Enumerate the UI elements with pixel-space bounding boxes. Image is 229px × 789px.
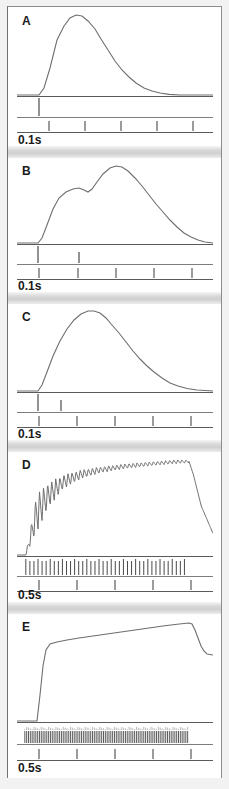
panel-d-trace-baseline — [17, 556, 213, 557]
scan-band-separator — [8, 292, 221, 304]
panel-a: A — [8, 8, 221, 146]
scan-band-separator — [8, 440, 221, 452]
panel-c-time-row — [17, 413, 213, 427]
panel-a-inner: 0.1s — [17, 8, 213, 146]
panel-a-stimulus-row — [17, 97, 213, 117]
panel-c-time-axis — [17, 427, 213, 428]
panel-d-inner: 0.5s — [17, 452, 213, 602]
panel-b-inner: 0.1s — [17, 158, 213, 292]
scan-band-separator — [8, 602, 221, 614]
panel-a-trace — [17, 12, 213, 96]
panel-b-scale-label: 0.1s — [18, 280, 41, 292]
panel-c: C — [8, 304, 221, 440]
panel-a-scale-label: 0.1s — [18, 134, 41, 146]
panel-d-time-axis — [17, 591, 213, 592]
panel-b: B — [8, 158, 221, 292]
panel-e: E — [8, 614, 221, 778]
panel-d-scale-label: 0.5s — [18, 589, 41, 601]
panel-e-trace-baseline — [17, 722, 213, 723]
panel-b-stimulus-row — [17, 245, 213, 264]
panel-e-stimulus-row — [17, 724, 213, 744]
panel-a-time-row — [17, 118, 213, 132]
panel-c-stimulus-row — [17, 393, 213, 412]
panel-c-scale-label: 0.1s — [18, 428, 41, 440]
figure-root: A — [0, 0, 229, 789]
panel-d: D — [8, 452, 221, 602]
panel-e-scale-label: 0.5s — [18, 762, 41, 774]
panel-c-trace — [17, 308, 213, 392]
panel-b-time-row — [17, 265, 213, 279]
panel-d-trace — [17, 456, 213, 556]
panel-b-trace — [17, 162, 213, 244]
panel-e-time-axis — [17, 760, 213, 761]
panel-d-time-row — [17, 577, 213, 591]
panel-b-time-axis — [17, 279, 213, 280]
panel-e-time-row — [17, 745, 213, 760]
panel-e-inner: 0.5s — [17, 614, 213, 778]
panel-e-trace — [17, 618, 213, 722]
panel-c-inner: 0.1s — [17, 304, 213, 440]
panel-a-time-axis — [17, 132, 213, 133]
panel-d-stimulus-row — [17, 558, 213, 576]
scan-band-separator — [8, 146, 221, 158]
